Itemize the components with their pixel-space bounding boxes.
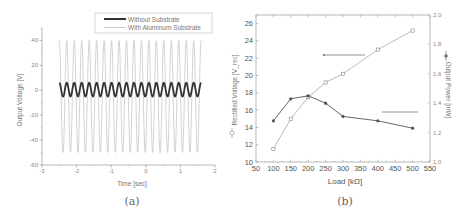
annotation-arrows xyxy=(323,54,418,112)
y-tick-label: -40 xyxy=(29,137,38,143)
chart-b-ylabel: Rectified Voltage [V_rec] xyxy=(231,54,239,125)
marker-power xyxy=(272,119,275,122)
marker-voltage xyxy=(376,48,379,51)
y-tick-label: 10 xyxy=(245,158,253,167)
caption-a: (a) xyxy=(124,195,139,208)
ylabel-marker-icon xyxy=(230,128,234,138)
x-tick-label: 1 xyxy=(179,168,183,174)
chart-a: -3-2-1012-60-40-2002040 Without Substrat… xyxy=(16,13,217,208)
y-tick-label: -60 xyxy=(29,162,38,168)
legend-label-without: Without Substrate xyxy=(128,16,180,23)
chart-b-xlabel: Load [kΩ] xyxy=(328,177,362,186)
marker-voltage xyxy=(411,29,414,32)
marker-power xyxy=(376,119,379,122)
x-tick-label: 500 xyxy=(406,164,419,173)
x-tick-label: 300 xyxy=(337,164,350,173)
x-tick-label: 0 xyxy=(144,168,148,174)
chart-a-axes: -3-2-1012-60-40-2002040 xyxy=(29,28,217,174)
legend-label-aluminum: With Aluminum Substrate xyxy=(128,24,201,31)
chart-b-plot xyxy=(272,29,418,151)
x-tick-label: -1 xyxy=(109,168,115,174)
series-rectified-voltage xyxy=(273,31,412,149)
y-tick-label: 22 xyxy=(245,54,253,63)
y2-tick-label: 2.0 xyxy=(433,12,442,18)
chart-a-plot xyxy=(59,40,201,152)
y-tick-label: 24 xyxy=(245,36,253,45)
chart-a-xlabel: Time [sec] xyxy=(117,180,147,188)
y-tick-label: 18 xyxy=(245,88,253,97)
y2-tick-label: 1.0 xyxy=(433,159,442,165)
y2-tick-label: 1.2 xyxy=(433,130,442,136)
figure: -3-2-1012-60-40-2002040 Without Substrat… xyxy=(0,0,464,213)
y-tick-label: 0 xyxy=(35,87,39,93)
chart-a-legend: Without Substrate With Aluminum Substrat… xyxy=(95,13,212,33)
marker-power xyxy=(341,115,344,118)
marker-voltage xyxy=(272,147,275,150)
y2label-marker-icon xyxy=(444,51,448,61)
y2-tick-label: 1.6 xyxy=(433,71,442,77)
x-tick-label: 150 xyxy=(285,164,298,173)
chart-b-y2label: Output Power [mW] xyxy=(444,62,452,119)
y-tick-label: 20 xyxy=(245,71,253,80)
x-tick-label: -3 xyxy=(39,168,45,174)
marker-power xyxy=(324,102,327,105)
y-tick-label: 26 xyxy=(245,19,253,28)
marker-power xyxy=(307,94,310,97)
x-tick-label: -2 xyxy=(74,168,80,174)
marker-voltage xyxy=(289,117,292,120)
y-tick-label: 16 xyxy=(245,106,253,115)
arrow-left-head-icon xyxy=(323,54,325,56)
y-tick-label: 40 xyxy=(31,37,38,43)
y-tick-label: 20 xyxy=(31,62,38,68)
y-tick-label: 12 xyxy=(245,140,253,149)
x-tick-label: 400 xyxy=(372,164,385,173)
x-tick-label: 200 xyxy=(302,164,315,173)
x-tick-label: 2 xyxy=(213,168,217,174)
x-tick-label: 350 xyxy=(354,164,367,173)
series-without-substrate xyxy=(59,83,201,97)
x-tick-label: 250 xyxy=(319,164,332,173)
chart-a-ylabel: Output Voltage [V] xyxy=(16,73,24,126)
marker-power xyxy=(411,127,414,130)
x-tick-label: 100 xyxy=(267,164,280,173)
x-tick-label: 50 xyxy=(252,164,260,173)
plot-frame xyxy=(256,15,430,162)
y2-tick-label: 1.4 xyxy=(433,100,442,106)
y2-tick-label: 1.8 xyxy=(433,41,442,47)
x-tick-label: 450 xyxy=(389,164,402,173)
marker-voltage xyxy=(324,81,327,84)
chart-b: 5010015020025030035040045050055010121416… xyxy=(230,12,452,208)
x-tick-label: 550 xyxy=(424,164,437,173)
caption-b: (b) xyxy=(337,195,353,208)
y-tick-label: 14 xyxy=(245,123,253,132)
marker-power xyxy=(289,97,292,100)
marker-voltage xyxy=(341,72,344,75)
y-tick-label: -20 xyxy=(29,112,38,118)
